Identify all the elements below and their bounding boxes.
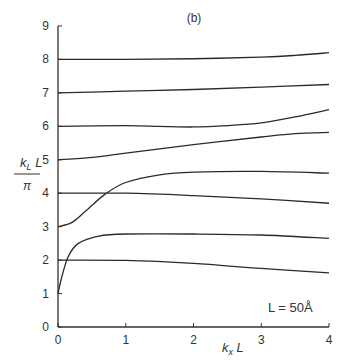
y-tick-label: 2 (42, 253, 49, 267)
svg-text:kL L: kL L (20, 155, 42, 172)
curve-branch-5 (58, 132, 329, 159)
y-tick-label: 8 (42, 52, 49, 66)
x-tick-label: 2 (190, 333, 197, 347)
x-tick-label: 4 (326, 333, 333, 347)
annotation-label: L = 50Å (268, 300, 313, 315)
y-tick-label: 9 (42, 19, 49, 33)
chart-title: (b) (187, 11, 202, 25)
y-tick-label: 1 (42, 287, 49, 301)
y-tick-label: 4 (42, 186, 49, 200)
y-tick-label: 0 (42, 320, 49, 334)
y-axis-label: kL L π (14, 155, 42, 193)
curve-branch-4 (58, 193, 329, 203)
x-tick-label: 0 (55, 333, 62, 347)
curve-branch-2 (58, 260, 329, 273)
svg-text:kx L: kx L (222, 340, 244, 357)
x-tick-label: 3 (258, 333, 265, 347)
axes: 012345678901234 (42, 19, 332, 347)
y-tick-label: 6 (42, 119, 49, 133)
y-tick-label: 5 (42, 153, 49, 167)
x-tick-label: 1 (122, 333, 129, 347)
curves (58, 53, 329, 294)
y-tick-label: 7 (42, 86, 49, 100)
curve-branch-3 (58, 171, 329, 226)
svg-text:π: π (23, 179, 32, 193)
curve-branch-6 (58, 110, 329, 127)
curve-branch-8 (58, 53, 329, 60)
x-axis-label: kx L (222, 340, 244, 357)
curve-branch-7 (58, 84, 329, 92)
y-tick-label: 3 (42, 220, 49, 234)
dispersion-chart: 012345678901234 (b) L = 50Å kL L π kx L (0, 0, 347, 364)
